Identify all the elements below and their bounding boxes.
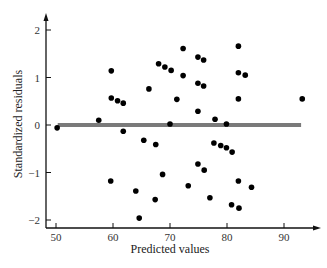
data-point (211, 140, 217, 146)
data-point (156, 61, 162, 67)
data-point (152, 197, 158, 203)
data-point (195, 80, 201, 86)
y-ticks: −2−1012 (28, 24, 51, 226)
data-point (236, 205, 242, 211)
data-point (236, 70, 242, 76)
data-point (195, 161, 201, 167)
data-point (224, 121, 230, 127)
data-point (136, 215, 142, 221)
data-point (133, 188, 139, 194)
data-point (180, 73, 186, 79)
data-point (201, 57, 207, 63)
data-point (160, 172, 166, 178)
x-axis-arrow-icon (313, 226, 321, 231)
data-point (242, 72, 248, 78)
y-tick-label: 0 (35, 119, 41, 131)
data-point (108, 95, 114, 101)
data-point (54, 125, 60, 131)
data-point (249, 184, 255, 190)
data-point (185, 183, 191, 189)
data-point (236, 178, 242, 184)
y-axis-arrow-icon (44, 13, 49, 21)
data-point (168, 68, 174, 74)
data-point (299, 96, 305, 102)
y-tick-label: −1 (28, 167, 40, 179)
data-point (167, 121, 173, 127)
data-point (120, 128, 126, 134)
data-point (201, 167, 207, 173)
x-ticks: 5060708090 (51, 223, 291, 243)
data-point (162, 64, 168, 70)
x-tick-label: 60 (108, 231, 120, 243)
y-axis-label: Standardized residuals (11, 70, 25, 179)
y-tick-label: −2 (28, 214, 40, 226)
x-tick-label: 90 (279, 231, 291, 243)
data-point (153, 142, 159, 148)
data-point (207, 195, 213, 201)
x-tick-label: 80 (222, 231, 234, 243)
plot-area: −2−1012 5060708090 (28, 13, 321, 243)
data-point (146, 86, 152, 92)
data-point (224, 145, 230, 151)
data-point (229, 149, 235, 155)
data-point (174, 97, 180, 103)
data-point (236, 43, 242, 49)
data-point (195, 54, 201, 60)
data-point (195, 108, 201, 114)
data-point (201, 83, 207, 89)
data-point (108, 68, 114, 74)
data-point (180, 46, 186, 52)
y-tick-label: 1 (35, 72, 41, 84)
y-tick-label: 2 (35, 24, 41, 36)
scatter-chart: −2−1012 5060708090 Predicted values Stan… (0, 0, 327, 268)
data-points (54, 43, 305, 221)
data-point (218, 143, 224, 149)
x-tick-label: 50 (51, 231, 63, 243)
data-point (212, 117, 218, 123)
data-point (108, 178, 114, 184)
data-point (96, 117, 102, 123)
data-point (115, 98, 121, 104)
data-point (229, 202, 235, 208)
data-point (120, 100, 126, 106)
data-point (141, 137, 147, 143)
x-axis-label: Predicted values (131, 242, 210, 256)
data-point (236, 96, 242, 102)
